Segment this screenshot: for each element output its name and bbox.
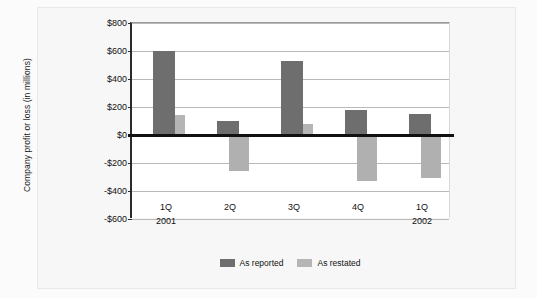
y-tick-label: -$400 <box>67 186 127 196</box>
y-tick-label: $200 <box>67 102 127 112</box>
bar-as-reported <box>409 114 431 135</box>
y-tick-label: $0 <box>67 130 127 140</box>
legend-swatch <box>220 259 235 267</box>
y-tick-label: -$200 <box>67 158 127 168</box>
bar-as-reported <box>345 110 367 135</box>
x-axis-label: 1Q2002 <box>387 202 457 226</box>
x-axis-quarter: 3Q <box>288 202 300 212</box>
bar-as-reported <box>153 51 175 135</box>
y-tick-mark <box>128 107 132 108</box>
y-tick-label: $600 <box>67 46 127 56</box>
legend-label: As reported <box>240 258 284 268</box>
zero-baseline <box>128 134 454 137</box>
y-axis-title: Company profit or loss (in millions) <box>22 35 32 215</box>
legend-item: As restated <box>297 258 360 268</box>
bar-as-restated <box>229 135 249 171</box>
plot-area: $800$600$400$200$0-$200-$400-$600 <box>130 22 450 218</box>
bar-as-reported <box>217 121 239 135</box>
y-tick-mark <box>128 51 132 52</box>
legend-label: As restated <box>317 258 360 268</box>
y-tick-label: -$600 <box>67 214 127 224</box>
grid-line <box>132 23 449 24</box>
y-tick-mark <box>128 23 132 24</box>
y-tick-mark <box>128 163 132 164</box>
y-tick-mark <box>128 79 132 80</box>
x-axis-label: 1Q2001 <box>131 202 201 226</box>
x-axis-quarter: 1Q <box>160 202 172 212</box>
y-tick-mark <box>128 191 132 192</box>
x-axis-year: 2001 <box>131 216 201 226</box>
y-tick-label: $800 <box>67 18 127 28</box>
x-axis-year: 2002 <box>387 216 457 226</box>
legend-swatch <box>297 259 312 267</box>
x-axis-quarter: 1Q <box>416 202 428 212</box>
y-tick-label: $400 <box>67 74 127 84</box>
x-axis-label: 3Q <box>259 202 329 212</box>
bar-as-reported <box>281 61 303 135</box>
grid-line <box>132 163 449 164</box>
x-axis-label: 4Q <box>323 202 393 212</box>
bar-as-restated <box>421 135 441 178</box>
chart-figure: Company profit or loss (in millions) $80… <box>0 0 537 298</box>
bar-as-restated <box>357 135 377 181</box>
legend-item: As reported <box>220 258 284 268</box>
chart-legend: As reportedAs restated <box>130 258 450 268</box>
x-axis-quarter: 2Q <box>224 202 236 212</box>
grid-line <box>132 191 449 192</box>
x-axis-label: 2Q <box>195 202 265 212</box>
grid-line <box>132 51 449 52</box>
x-axis-quarter: 4Q <box>352 202 364 212</box>
